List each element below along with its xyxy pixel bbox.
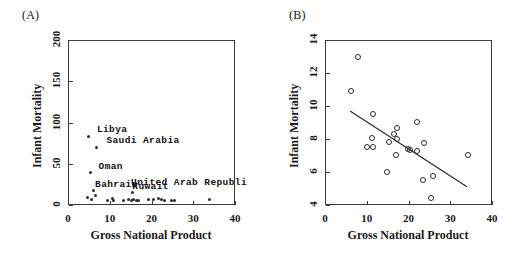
y-tick-label: 10 [307,95,319,115]
data-point [152,198,155,201]
data-point [163,199,166,202]
x-tick-mark [152,201,153,205]
y-tick-mark [326,205,330,206]
panel-a-xaxis-title: Gross National Product [91,228,212,243]
point-label-saudi-arabia: Saudi Arabia [106,135,179,146]
x-tick-label: 20 [146,212,157,224]
y-tick-mark [69,123,73,124]
data-point [95,146,98,149]
figure-container: (A) Gross National Product Infant Mortal… [0,0,530,259]
y-tick-label: 100 [50,112,62,132]
x-tick-label: 20 [403,212,414,224]
panel-a: (A) Gross National Product Infant Mortal… [0,0,265,259]
panel-b: (B) Gross National Product Infant Mortal… [265,0,530,259]
x-tick-mark [193,201,194,205]
y-tick-label: 150 [50,70,62,90]
y-tick-label: 8 [307,128,319,148]
data-point [208,198,211,201]
panel-b-tag: (B) [289,8,306,23]
x-tick-label: 30 [188,212,199,224]
point-label-libya: Libya [97,124,128,135]
x-tick-mark [492,201,493,205]
x-tick-label: 40 [487,212,498,224]
y-tick-mark [69,81,73,82]
panel-b-xaxis-title: Gross National Product [348,228,469,243]
y-tick-mark [69,205,73,206]
point-label-oman: Oman [99,161,123,172]
x-tick-label: 10 [361,212,372,224]
data-point [106,199,109,202]
panel-b-regression-line [325,40,492,205]
y-tick-label: 14 [307,29,319,49]
x-tick-label: 30 [445,212,456,224]
y-tick-label: 0 [50,194,62,214]
y-tick-mark [69,164,73,165]
x-tick-mark [110,201,111,205]
y-tick-label: 50 [50,153,62,173]
data-point [90,198,93,201]
y-tick-label: 200 [50,29,62,49]
y-tick-label: 12 [307,62,319,82]
x-tick-label: 0 [322,212,328,224]
y-tick-mark [69,40,73,41]
y-tick-label: 6 [307,161,319,181]
point-label-united-arab-republic: United Arab Republi [131,177,247,188]
panel-b-yaxis-title: Infant Mortality [287,84,302,168]
panel-a-tag: (A) [22,8,39,23]
x-tick-mark [235,201,236,205]
panel-a-yaxis-title: Infant Mortality [30,84,45,168]
x-tick-label: 0 [65,212,71,224]
x-tick-label: 10 [104,212,115,224]
data-point [86,196,89,199]
x-tick-label: 40 [230,212,241,224]
y-tick-label: 4 [307,194,319,214]
data-point [89,171,92,174]
